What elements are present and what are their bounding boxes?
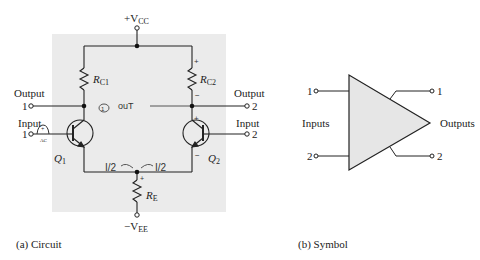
- annotation-rc2-minus: −: [195, 91, 200, 100]
- annotation-q2-plus: +: [194, 114, 199, 123]
- symbol-outputs-label: Outputs: [440, 117, 475, 129]
- vcc-label: +VCC: [124, 12, 149, 26]
- annotation-rc2-plus: +: [194, 57, 199, 66]
- vee-label: −VEE: [124, 220, 148, 234]
- annotation-half-left: I/2: [105, 162, 117, 173]
- diff-amp-symbol: [314, 75, 434, 170]
- caption-circuit: (a) Circuit: [16, 238, 62, 250]
- output2-label: Output: [234, 87, 265, 99]
- symbol-in1: 1: [307, 85, 313, 97]
- symbol-inputs-label: Inputs: [302, 117, 330, 129]
- annotation-out: ouT: [118, 101, 134, 111]
- output1-label: Output: [14, 87, 45, 99]
- symbol-out2: 2: [437, 150, 443, 162]
- ac-source-plus: +: [41, 126, 45, 132]
- diff-amp-figure: +VCC −VEE RC1 RC2 RE Q1 Q2 Output 1 Outp…: [0, 0, 480, 260]
- input1-num: 1: [22, 128, 28, 140]
- annotation-re-plus: +: [140, 175, 144, 182]
- annotation-half-right: I/2: [155, 162, 167, 173]
- symbol-in2: 2: [307, 150, 313, 162]
- output1-num: 1: [22, 100, 28, 112]
- annotation-q2-minus: −: [195, 151, 200, 160]
- caption-symbol: (b) Symbol: [298, 238, 348, 250]
- input2-num: 2: [252, 128, 258, 140]
- output2-num: 2: [252, 100, 258, 112]
- circuit-background: [52, 34, 226, 212]
- ac-source-label: AC: [40, 138, 48, 143]
- symbol-out1: 1: [437, 85, 443, 97]
